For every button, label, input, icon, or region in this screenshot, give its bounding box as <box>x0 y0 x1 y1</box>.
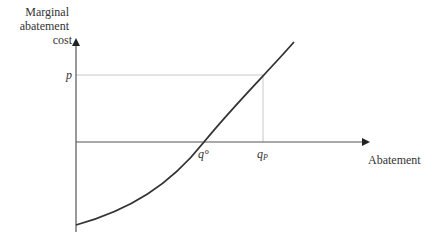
y-axis-label: Marginal abatement cost <box>20 5 73 47</box>
qp-label: qP <box>257 147 268 162</box>
x-axis-label: Abatement <box>368 153 421 167</box>
mac-curve <box>76 42 294 225</box>
q0-label: q° <box>198 147 209 161</box>
price-label: p <box>65 68 72 82</box>
mac-diagram: Marginal abatement cost p q° qP Abatemen… <box>0 0 436 242</box>
